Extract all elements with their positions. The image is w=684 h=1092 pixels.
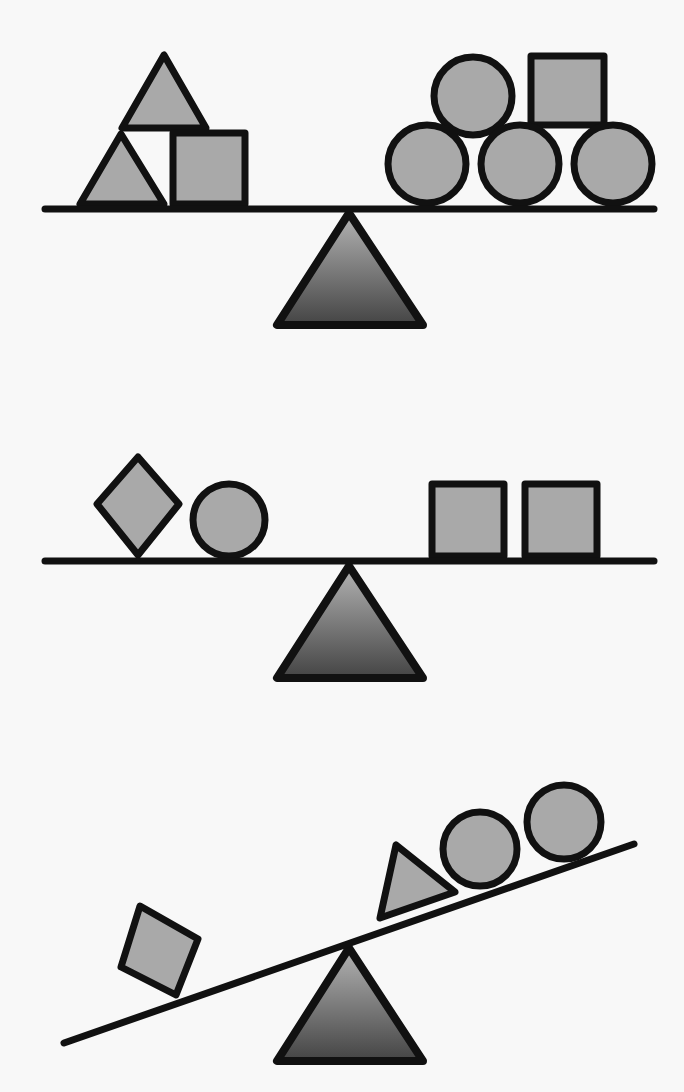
fulcrum-3 xyxy=(277,948,423,1061)
circle-shape xyxy=(434,57,512,135)
balance-puzzle-svg: Scale 1 Scale 2 xyxy=(0,0,684,1092)
triangle-shape xyxy=(122,55,206,128)
circle-shape xyxy=(388,125,466,203)
circle-shape xyxy=(193,484,265,556)
scale-1: Scale 1 xyxy=(45,55,654,325)
circle-shape xyxy=(574,125,652,203)
scale-2: Scale 2 xyxy=(45,457,654,678)
diamond-shape xyxy=(97,457,179,555)
fulcrum-2 xyxy=(277,566,423,678)
square-shape xyxy=(525,484,597,556)
square-shape xyxy=(173,133,245,204)
scale-2-left-pan xyxy=(97,457,265,556)
circle-shape xyxy=(481,125,559,203)
square-shape xyxy=(531,56,604,125)
scale-3: Scale 3 xyxy=(64,785,634,1061)
scale-2-right-pan xyxy=(432,484,597,556)
diamond-shape xyxy=(121,906,198,995)
circle-shape xyxy=(443,812,517,886)
fulcrum-1 xyxy=(277,213,423,325)
triangle-shape xyxy=(80,134,164,204)
square-shape xyxy=(432,484,504,556)
scale-3-right-pan xyxy=(380,785,601,918)
scale-3-left-pan xyxy=(121,906,198,995)
balance-puzzle-figure: Balance scale puzzle Scale 1 xyxy=(0,0,684,1092)
scale-1-right-pan xyxy=(388,56,652,203)
circle-shape xyxy=(527,785,601,859)
scale-1-left-pan xyxy=(80,55,245,204)
